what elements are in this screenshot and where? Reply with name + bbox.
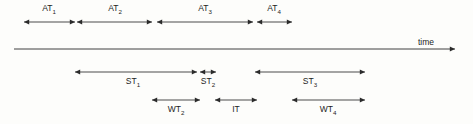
interval-wt4: WT4 xyxy=(292,98,365,117)
arrowhead-left xyxy=(77,20,82,25)
arrowhead-right xyxy=(252,98,257,103)
arrowhead-left xyxy=(157,20,162,25)
arrowhead-left xyxy=(24,20,29,25)
interval-label-wt2: WT2 xyxy=(168,104,185,116)
arrowhead-left xyxy=(200,70,205,75)
row-service-times: ST1ST2ST3 xyxy=(75,70,365,89)
arrowhead-right xyxy=(360,98,365,103)
row-wait-and-idle-times: WT2ITWT4 xyxy=(152,98,365,117)
interval-rows: AT1AT2AT3AT4ST1ST2ST3WT2ITWT4 xyxy=(24,3,365,116)
arrowhead-right xyxy=(147,20,152,25)
interval-it: IT xyxy=(215,98,257,114)
arrowhead-right xyxy=(287,20,292,25)
interval-at2: AT2 xyxy=(77,3,152,24)
arrowhead-right xyxy=(211,70,216,75)
interval-label-st2: ST2 xyxy=(201,76,216,88)
interval-label-at4: AT4 xyxy=(267,3,281,15)
interval-at4: AT4 xyxy=(257,3,292,24)
interval-label-st1: ST1 xyxy=(126,76,141,88)
arrowhead-right xyxy=(195,98,200,103)
arrowhead-left xyxy=(255,70,260,75)
interval-st3: ST3 xyxy=(255,70,365,89)
interval-wt2: WT2 xyxy=(152,98,200,117)
time-axis-arrowhead xyxy=(450,47,455,52)
arrowhead-left xyxy=(152,98,157,103)
arrowhead-left xyxy=(292,98,297,103)
interval-at3: AT3 xyxy=(157,3,253,24)
row-arrival-times: AT1AT2AT3AT4 xyxy=(24,3,292,24)
arrowhead-left xyxy=(75,70,80,75)
time-axis: time xyxy=(14,37,455,51)
arrowhead-right xyxy=(248,20,253,25)
interval-st1: ST1 xyxy=(75,70,197,89)
arrowhead-right xyxy=(70,20,75,25)
interval-label-it: IT xyxy=(232,104,240,114)
arrowhead-left xyxy=(215,98,220,103)
interval-st2: ST2 xyxy=(200,70,216,89)
interval-label-wt4: WT4 xyxy=(320,104,337,116)
arrowhead-left xyxy=(257,20,262,25)
interval-at1: AT1 xyxy=(24,3,75,24)
arrowhead-right xyxy=(192,70,197,75)
interval-label-st3: ST3 xyxy=(303,76,318,88)
arrowhead-right xyxy=(360,70,365,75)
timing-diagram-canvas: time AT1AT2AT3AT4ST1ST2ST3WT2ITWT4 xyxy=(0,0,473,124)
timing-diagram: time AT1AT2AT3AT4ST1ST2ST3WT2ITWT4 xyxy=(0,0,473,124)
interval-label-at3: AT3 xyxy=(198,3,212,15)
time-axis-label: time xyxy=(418,37,434,47)
interval-label-at2: AT2 xyxy=(108,3,122,15)
interval-label-at1: AT1 xyxy=(42,3,56,15)
